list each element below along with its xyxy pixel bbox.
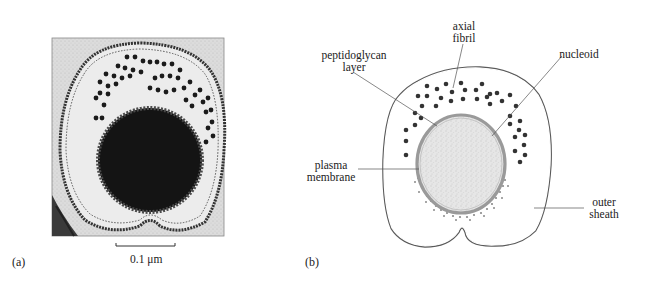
scale-bar xyxy=(116,243,175,246)
label-axial-fibril: axial fibril xyxy=(446,20,482,44)
nucleoid-body xyxy=(417,115,505,213)
micrograph-figure xyxy=(0,0,672,283)
scale-bar-label: 0.1 μm xyxy=(130,253,162,265)
label-outer-sheath: outer sheath xyxy=(584,196,624,220)
label-plasma-membrane: plasma membrane xyxy=(302,159,360,183)
label-peptidoglycan-layer: peptidoglycan layer xyxy=(310,49,398,73)
label-nucleoid: nucleoid xyxy=(554,48,604,60)
panel-b-label: (b) xyxy=(305,255,319,270)
cell-diagram xyxy=(353,44,584,246)
micrograph-image xyxy=(52,38,225,236)
panel-a-label: (a) xyxy=(12,255,25,270)
